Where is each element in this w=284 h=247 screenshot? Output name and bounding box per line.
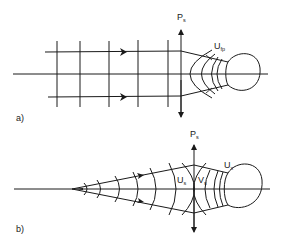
panel-a-ray-arrow-icon [120,93,127,101]
panel-a-label: a) [16,113,24,123]
panel-a-ray-arrow-icon [120,48,127,56]
panel-a-upper-ray [45,51,228,62]
panel-a: Ps Ufp a) [13,12,268,123]
panel-b-ray-arrow-icon [137,198,144,203]
panel-b-label: b) [16,224,24,234]
panel-a-source-bulb [226,54,260,91]
panel-a-ps-label: Ps [177,12,186,23]
panel-b-us-label: Us [177,175,187,186]
panel-b: Ps Us Vs Ux b) [14,129,270,234]
wave-propagation-diagram: Ps Ufp a) Ps Us Vs Ux [0,0,284,247]
panel-b-ps-label: Ps [190,129,199,140]
panel-a-ufp-label: Ufp [214,41,225,52]
panel-b-ux-label: Ux [224,160,234,171]
panel-b-vs-label: Vs [198,175,207,186]
